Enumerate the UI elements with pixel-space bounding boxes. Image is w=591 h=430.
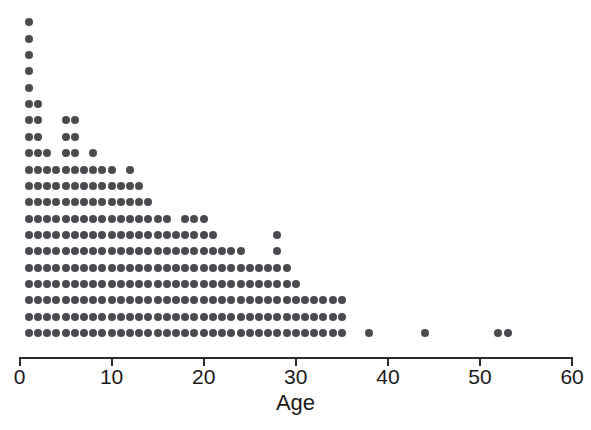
x-axis-tick-label: 50 <box>468 366 491 387</box>
dot-plot-figure: 0102030405060 Age <box>0 0 591 430</box>
x-axis-tick-label: 20 <box>192 366 215 387</box>
x-axis: 0102030405060 <box>0 0 591 430</box>
x-axis-tick-label: 30 <box>284 366 307 387</box>
x-axis-tick-label: 60 <box>560 366 583 387</box>
x-axis-title: Age <box>0 392 591 414</box>
x-axis-tick-label: 40 <box>376 366 399 387</box>
x-axis-tick-label: 10 <box>100 366 123 387</box>
x-axis-tick-label: 0 <box>14 366 26 387</box>
